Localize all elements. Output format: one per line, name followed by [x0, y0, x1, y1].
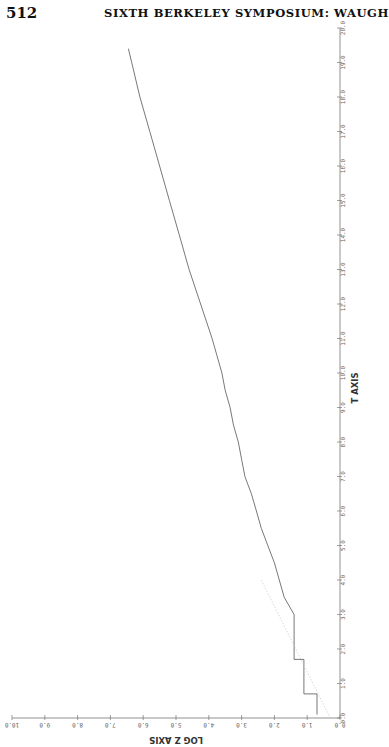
- t-axis-tick-label: 4.0: [339, 574, 346, 585]
- reference-line: [261, 580, 330, 718]
- t-axis-tick-label: 18.0: [339, 89, 346, 104]
- log-z-axis-tick-label: 8.0: [72, 722, 83, 729]
- t-axis-tick-label: 2.0: [339, 643, 346, 654]
- t-axis-tick-label: 10.0: [339, 365, 346, 380]
- t-axis-tick-label: 5.0: [339, 540, 346, 551]
- step-curve: [128, 49, 317, 715]
- t-axis-tick-label: 7.0: [339, 471, 346, 482]
- log-z-axis-tick-label: 9.0: [39, 722, 50, 729]
- t-axis-tick-label: 16.0: [339, 158, 346, 173]
- log-z-axis-tick-label: 10.0: [4, 722, 19, 729]
- t-axis-tick-label: 19.0: [339, 55, 346, 70]
- log-z-axis-tick-label: 7.0: [105, 722, 116, 729]
- t-axis-tick-label: 1.0: [339, 678, 346, 689]
- log-z-axis-tick-label: 3.0: [236, 722, 247, 729]
- t-axis-title: T AXIS: [350, 372, 360, 403]
- log-z-axis-tick-label: 5.0: [170, 722, 181, 729]
- t-axis-tick-label: 15.0: [339, 193, 346, 208]
- t-axis-tick-label: 13.0: [339, 262, 346, 277]
- axes: 0.01.02.03.04.05.06.07.08.09.010.011.012…: [4, 20, 346, 729]
- data-series: [128, 49, 330, 718]
- t-axis-tick-label: 8.0: [339, 436, 346, 447]
- log-z-axis-tick-label: 0.0: [334, 722, 345, 729]
- log-z-axis-tick-label: 1.0: [301, 722, 312, 729]
- t-axis-tick-label: 12.0: [339, 296, 346, 311]
- log-z-axis-tick-label: 2.0: [269, 722, 280, 729]
- t-axis-tick-label: 20.0: [339, 20, 346, 35]
- t-axis-tick-label: 17.0: [339, 124, 346, 139]
- log-z-axis-title: LOG Z AXIS: [149, 735, 203, 745]
- t-axis-tick-label: 9.0: [339, 402, 346, 413]
- log-z-axis-tick-label: 4.0: [203, 722, 214, 729]
- log-z-axis-tick-label: 6.0: [137, 722, 148, 729]
- t-axis-tick-label: 14.0: [339, 227, 346, 242]
- t-axis-tick-label: 11.0: [339, 331, 346, 346]
- t-axis-tick-label: 6.0: [339, 505, 346, 516]
- t-axis-tick-label: 3.0: [339, 609, 346, 620]
